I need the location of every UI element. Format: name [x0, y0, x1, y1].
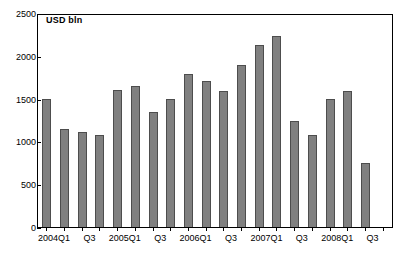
y-axis-tick-label: 2000 — [0, 52, 36, 62]
bar — [95, 135, 104, 227]
x-axis-tick-label: 2007Q1 — [250, 233, 282, 249]
x-axis-tick-label — [141, 233, 154, 249]
bar — [42, 99, 51, 227]
bar-slot — [250, 15, 268, 227]
x-axis-tick-label — [353, 233, 366, 249]
x-axis-tick-label — [167, 233, 180, 249]
x-axis-tick-mark — [46, 228, 47, 231]
x-axis-tick-mark — [153, 228, 154, 231]
bar — [60, 129, 69, 227]
bar — [308, 135, 317, 227]
bar-slot — [286, 15, 304, 227]
bar-slot — [233, 15, 251, 227]
x-axis-tick-label: 2008Q1 — [321, 233, 353, 249]
x-axis-tick-mark — [117, 228, 118, 231]
x-axis-tick-mark — [170, 228, 171, 231]
x-axis-tick-mark — [276, 228, 277, 231]
bar — [113, 90, 122, 227]
bar-slot — [56, 15, 74, 227]
bar-slot — [127, 15, 145, 227]
bar-slot — [162, 15, 180, 227]
x-axis-tick-label: Q3 — [295, 233, 308, 249]
bar-chart: USD bln 05001000150020002500 2004Q1Q3200… — [0, 0, 408, 256]
x-axis-tick-mark — [99, 228, 100, 231]
bar-slot — [374, 15, 392, 227]
bar — [361, 163, 370, 227]
x-axis-tick-label — [212, 233, 225, 249]
bar-slot — [73, 15, 91, 227]
bar-slot — [109, 15, 127, 227]
bar — [78, 132, 87, 227]
x-axis-tick-label — [282, 233, 295, 249]
x-axis-tick-label: Q3 — [225, 233, 238, 249]
x-axis-tick-mark — [383, 228, 384, 231]
x-axis-tick-mark — [64, 228, 65, 231]
x-axis-tick-label: 2004Q1 — [38, 233, 70, 249]
x-axis-tick-label: Q3 — [366, 233, 379, 249]
bar — [272, 36, 281, 227]
bar — [343, 91, 352, 227]
x-axis-tick-mark — [365, 228, 366, 231]
bar-slot — [38, 15, 56, 227]
x-axis-tick-label — [237, 233, 250, 249]
bar-series — [38, 15, 392, 227]
bar — [290, 121, 299, 227]
x-axis-tick-mark — [241, 228, 242, 231]
bar-slot — [339, 15, 357, 227]
x-axis-tick-label — [96, 233, 109, 249]
bar — [219, 91, 228, 227]
bar-slot — [357, 15, 375, 227]
x-axis-tick-label — [70, 233, 83, 249]
y-axis-tick-label: 2500 — [0, 9, 36, 19]
bar-slot — [91, 15, 109, 227]
bar — [326, 99, 335, 227]
x-axis-tick-label: 2006Q1 — [180, 233, 212, 249]
x-axis-tick-label: Q3 — [83, 233, 96, 249]
x-axis-tick-mark — [259, 228, 260, 231]
bar — [149, 112, 158, 227]
bar-slot — [144, 15, 162, 227]
bar-slot — [197, 15, 215, 227]
y-axis-tick-label: 0 — [0, 223, 36, 233]
bar-slot — [304, 15, 322, 227]
bar — [131, 86, 140, 227]
bar-slot — [268, 15, 286, 227]
x-axis-tick-mark — [82, 228, 83, 231]
x-axis-tick-mark — [294, 228, 295, 231]
bar — [184, 74, 193, 227]
bar — [237, 65, 246, 227]
x-axis-tick-label: Q3 — [154, 233, 167, 249]
bar — [202, 81, 211, 227]
x-axis-tick-mark — [188, 228, 189, 231]
x-axis-tick-mark — [206, 228, 207, 231]
x-axis-tick-mark — [135, 228, 136, 231]
x-axis-tick-label — [308, 233, 321, 249]
x-axis-tick-mark — [330, 228, 331, 231]
bar — [255, 45, 264, 227]
x-axis-tick-mark — [347, 228, 348, 231]
bar-slot — [215, 15, 233, 227]
x-axis-tick-label: 2005Q1 — [109, 233, 141, 249]
bar — [166, 99, 175, 227]
y-axis-tick-label: 1500 — [0, 95, 36, 105]
y-axis-tick-label: 500 — [0, 180, 36, 190]
bar-slot — [321, 15, 339, 227]
x-axis-tick-label — [379, 233, 392, 249]
x-axis-tick-mark — [223, 228, 224, 231]
x-axis-tick-mark — [312, 228, 313, 231]
x-axis-labels: 2004Q1Q32005Q1Q32006Q1Q32007Q1Q32008Q1Q3 — [38, 233, 392, 249]
y-axis-tick-label: 1000 — [0, 137, 36, 147]
bar-slot — [180, 15, 198, 227]
